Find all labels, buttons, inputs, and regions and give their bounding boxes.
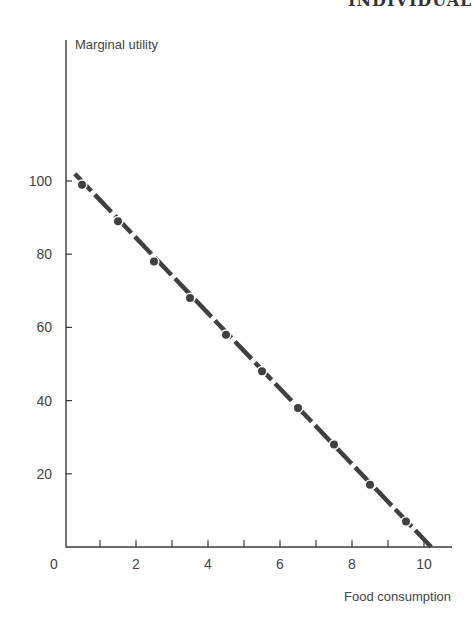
data-point <box>330 441 338 449</box>
x-tick-label: 10 <box>416 556 432 572</box>
data-point <box>222 331 230 339</box>
data-point <box>78 181 86 189</box>
data-point <box>186 294 194 302</box>
data-point <box>258 367 266 375</box>
y-tick-label: 100 <box>29 173 53 189</box>
x-tick-label: 6 <box>276 556 284 572</box>
y-tick-label: 40 <box>36 393 52 409</box>
marginal-utility-line <box>75 174 431 547</box>
x-tick-label: 4 <box>204 556 212 572</box>
y-tick-label: 80 <box>36 246 52 262</box>
data-point <box>114 217 122 225</box>
data-point <box>366 481 374 489</box>
y-tick-label: 60 <box>36 319 52 335</box>
data-series <box>75 174 431 547</box>
data-point <box>402 517 410 525</box>
x-tick-label: 2 <box>132 556 140 572</box>
axes: 204060801000246810 <box>29 40 452 572</box>
x-tick-label: 0 <box>50 556 58 572</box>
axis-labels: Marginal utility Food consumption <box>75 37 451 604</box>
y-axis-label: Marginal utility <box>75 37 159 52</box>
x-tick-label: 8 <box>348 556 356 572</box>
y-tick-label: 20 <box>36 466 52 482</box>
data-point <box>150 258 158 266</box>
x-axis-label: Food consumption <box>344 589 451 604</box>
data-point <box>294 404 302 412</box>
